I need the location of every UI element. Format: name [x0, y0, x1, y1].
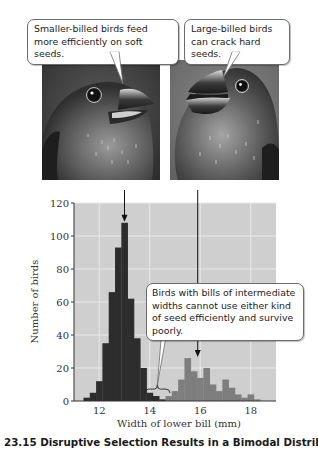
- x-tick-label: 18: [244, 405, 257, 416]
- y-tick-label: 40: [56, 330, 69, 341]
- figure-caption: 23.15 Disruptive Selection Results in a …: [4, 436, 318, 448]
- histogram-bar: [203, 368, 210, 401]
- histogram-bar: [222, 380, 229, 401]
- histogram-bar: [102, 343, 109, 401]
- y-tick-label: 100: [50, 231, 69, 242]
- x-tick-label: 16: [194, 405, 207, 416]
- histogram-bar: [248, 394, 255, 401]
- histogram-bar: [140, 368, 147, 401]
- histogram-bar: [90, 393, 97, 401]
- histogram-bar: [128, 299, 135, 401]
- x-axis-label-text: Width of lower bill (mm): [117, 418, 241, 429]
- histogram-bar: [172, 391, 179, 401]
- y-axis-label: Number of birds: [29, 252, 40, 352]
- y-tick-label: 80: [56, 264, 69, 275]
- histogram-bar: [115, 248, 122, 401]
- histogram-bar: [153, 396, 160, 401]
- histogram-bar: [229, 388, 236, 401]
- histogram-bar: [210, 385, 217, 402]
- histogram-bar: [184, 358, 191, 401]
- x-tick-label: 12: [93, 405, 106, 416]
- y-axis-label-text: Number of birds: [29, 260, 40, 344]
- histogram-bar: [96, 381, 103, 401]
- histogram-bar: [235, 394, 242, 401]
- histogram-bar: [178, 380, 185, 401]
- callout-pointers: [0, 0, 318, 200]
- x-axis-label: Width of lower bill (mm): [104, 418, 254, 429]
- callout-intermediate-text: Birds with bills of intermediate widths …: [152, 287, 295, 336]
- histogram-bar: [147, 393, 154, 401]
- x-tick-label: 14: [143, 405, 156, 416]
- histogram-bar: [121, 223, 128, 401]
- y-tick-label: 20: [56, 363, 69, 374]
- histogram-bar: [216, 391, 223, 401]
- y-tick-label: 60: [56, 297, 69, 308]
- histogram-bar: [134, 338, 141, 401]
- histogram-bar: [109, 292, 116, 401]
- callout-intermediate: Birds with bills of intermediate widths …: [146, 283, 304, 341]
- histogram-bar: [197, 378, 204, 401]
- y-tick-label: 0: [63, 396, 69, 407]
- histogram-bar: [166, 396, 173, 401]
- histogram-bar: [191, 371, 198, 401]
